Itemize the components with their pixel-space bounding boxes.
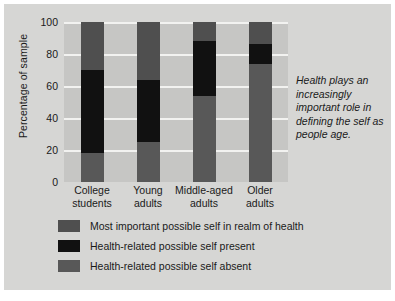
bar-segment — [193, 96, 216, 182]
bar-segment — [81, 70, 104, 153]
legend-item[interactable]: Health-related possible self absent — [58, 257, 388, 277]
bar-segment — [137, 80, 160, 142]
bar-segment — [193, 41, 216, 95]
bar-segment — [193, 22, 216, 41]
y-axis-ticks: 020406080100 — [26, 22, 58, 182]
legend-item[interactable]: Most important possible self in realm of… — [58, 217, 388, 237]
x-tick-label-line1: Older — [222, 184, 298, 197]
legend-swatch — [58, 240, 80, 252]
legend-swatch — [58, 260, 80, 272]
bar-segment — [249, 64, 272, 182]
y-tick-label: 20 — [26, 144, 58, 156]
y-tick-label: 100 — [26, 16, 58, 28]
chart-annotation: Health plays an increasingly important r… — [296, 74, 388, 142]
bar-segment — [137, 22, 160, 80]
plot-region — [64, 22, 288, 182]
legend-item[interactable]: Health-related possible self present — [58, 237, 388, 257]
y-tick-label: 40 — [26, 112, 58, 124]
bar-segment — [249, 44, 272, 63]
y-tick-label: 80 — [26, 48, 58, 60]
y-tick-label: 60 — [26, 80, 58, 92]
legend-label: Most important possible self in realm of… — [90, 217, 304, 235]
figure-panel: Percentage of sample 020406080100 Colleg… — [4, 4, 391, 290]
x-tick-label-line2: adults — [222, 197, 298, 210]
bar-3[interactable] — [249, 22, 272, 182]
x-axis-labels: CollegestudentsYoungadultsMiddle-agedadu… — [64, 184, 288, 214]
bar-segment — [81, 22, 104, 70]
bar-2[interactable] — [193, 22, 216, 182]
bar-0[interactable] — [81, 22, 104, 182]
bar-1[interactable] — [137, 22, 160, 182]
bar-segment — [249, 22, 272, 44]
legend-label: Health-related possible self present — [90, 237, 255, 255]
legend-swatch — [58, 220, 80, 232]
bar-segment — [81, 153, 104, 182]
x-tick-label: Olderadults — [222, 184, 298, 209]
legend-label: Health-related possible self absent — [90, 257, 251, 275]
bar-segment — [137, 142, 160, 182]
chart-legend: Most important possible self in realm of… — [58, 217, 388, 277]
chart-area: Percentage of sample 020406080100 Colleg… — [4, 4, 391, 204]
